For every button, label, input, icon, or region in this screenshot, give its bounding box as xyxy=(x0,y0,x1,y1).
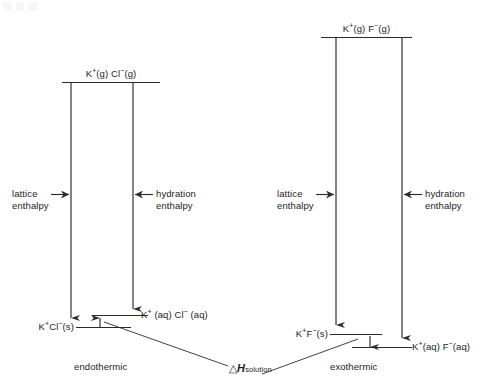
kcl-gas-cation-state: (g) xyxy=(96,68,108,79)
kf-hydration-line2: enthalpy xyxy=(425,200,462,211)
enthalpy-diagram-canvas: K+(g) Cl−(g) lattice enthalpy hydration … xyxy=(0,0,492,391)
kcl-gaseous-ions-label: K+(g) Cl−(g) xyxy=(62,68,160,80)
kcl-hydration-enthalpy-label: hydration enthalpy xyxy=(156,188,216,211)
kcl-aqueous-label: K+ (aq) Cl− (aq) xyxy=(141,309,208,321)
kcl-hydration-line2: enthalpy xyxy=(156,200,193,211)
kf-aq-cation-charge: + xyxy=(418,340,422,347)
kf-aq-anion-charge: − xyxy=(449,340,453,347)
kcl-aq-anion: Cl xyxy=(174,309,183,320)
kf-solid-anion-charge: − xyxy=(312,327,316,334)
solution-subscript: solution xyxy=(245,365,272,374)
kcl-outcome-label: endothermic xyxy=(74,361,127,373)
kf-gaseous-ions-label: K+(g) F−(g) xyxy=(321,23,412,35)
kf-lattice-line1: lattice xyxy=(277,188,303,199)
kf-hydration-line1: hydration xyxy=(425,188,465,199)
kf-solid-label: K+F−(s) xyxy=(264,328,328,340)
kcl-gas-anion: Cl xyxy=(111,68,120,79)
kcl-solid-anion-charge: − xyxy=(58,320,62,327)
h-symbol: H xyxy=(237,362,245,374)
kcl-aq-cation-charge: + xyxy=(147,308,151,315)
kcl-lattice-enthalpy-label: lattice enthalpy xyxy=(12,188,52,211)
kf-lattice-enthalpy-label: lattice enthalpy xyxy=(277,188,317,211)
kf-outcome-label: exothermic xyxy=(330,361,377,373)
kf-hydration-enthalpy-label: hydration enthalpy xyxy=(425,188,487,211)
kf-gas-anion-state: (g) xyxy=(378,23,390,34)
delta-symbol: △ xyxy=(229,362,237,374)
kcl-aq-anion-charge: − xyxy=(184,308,188,315)
delta-h-solution-label: △Hsolution xyxy=(229,363,272,376)
kf-gas-cation-state: (g) xyxy=(353,23,365,34)
kf-lattice-line2: enthalpy xyxy=(277,200,314,211)
kf-aqueous-label: K+(aq) F−(aq) xyxy=(412,341,470,353)
kcl-gas-anion-state: (g) xyxy=(124,68,136,79)
kcl-lattice-line1: lattice xyxy=(12,188,38,199)
kcl-solid-label: K+Cl−(s) xyxy=(6,321,74,333)
kcl-hydration-line1: hydration xyxy=(156,188,196,199)
kcl-lattice-line2: enthalpy xyxy=(12,200,49,211)
